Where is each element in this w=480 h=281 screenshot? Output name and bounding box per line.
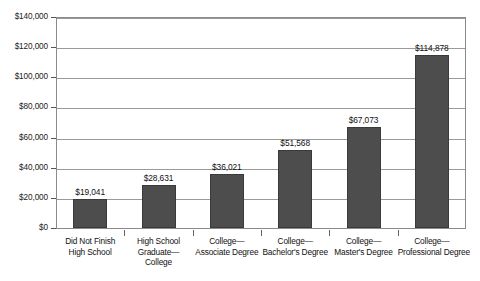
gridline [57,108,465,109]
bar [73,199,107,228]
bar-chart: $0$20,000$40,000$60,000$80,000$100,000$1… [0,0,480,281]
y-axis-tick-label: $100,000 [15,73,48,81]
y-axis-tick-label: $120,000 [15,43,48,51]
category-label-line: Did Not Finish [56,236,124,247]
x-axis-category-label: College—Professional Degree [398,236,466,257]
category-label-line: Master's Degree [329,247,397,258]
bar [347,127,381,228]
y-axis-tick-mark [51,107,56,108]
x-axis-category-label: College—Associate Degree [193,236,261,257]
category-label-line: High School [124,236,192,247]
gridline [57,199,465,200]
category-label-line: College— [398,236,466,247]
bar-value-label: $28,631 [119,174,199,182]
category-label-line: College— [261,236,329,247]
y-axis-tick-label: $20,000 [19,194,48,202]
category-label-line: High School [56,247,124,258]
category-label-line: College— [329,236,397,247]
bar [415,55,449,228]
bar [142,185,176,228]
bar-value-label: $36,021 [187,163,267,171]
x-axis-category-label: College—Master's Degree [329,236,397,257]
category-label-line: Associate Degree [193,247,261,258]
category-label-line: Graduate— [124,247,192,258]
category-label-line: College [124,257,192,268]
y-axis-tick-mark [51,77,56,78]
y-axis-tick-mark [51,138,56,139]
y-axis-tick-label: $0 [39,224,48,232]
y-axis-tick-mark [51,47,56,48]
y-axis-tick-mark [51,168,56,169]
category-label-line: Bachelor's Degree [261,247,329,258]
bar-value-label: $114,878 [392,44,472,52]
gridline [57,18,465,19]
gridline [57,78,465,79]
x-axis-category-label: College—Bachelor's Degree [261,236,329,257]
bar [278,150,312,228]
y-axis-tick-mark [51,228,56,229]
x-axis-category-label: High SchoolGraduate—College [124,236,192,268]
y-axis-tick-label: $40,000 [19,164,48,172]
category-label-line: College— [193,236,261,247]
y-axis-tick-label: $60,000 [19,134,48,142]
y-axis-tick-label: $140,000 [15,13,48,21]
category-label-line: Professional Degree [398,247,466,258]
x-axis-category-label: Did Not FinishHigh School [56,236,124,257]
bar [210,174,244,228]
bar-value-label: $51,568 [255,139,335,147]
bar-value-label: $67,073 [324,116,404,124]
y-axis-tick-mark [51,198,56,199]
bar-value-label: $19,041 [50,188,130,196]
y-axis-tick-mark [51,17,56,18]
y-axis-tick-label: $80,000 [19,103,48,111]
